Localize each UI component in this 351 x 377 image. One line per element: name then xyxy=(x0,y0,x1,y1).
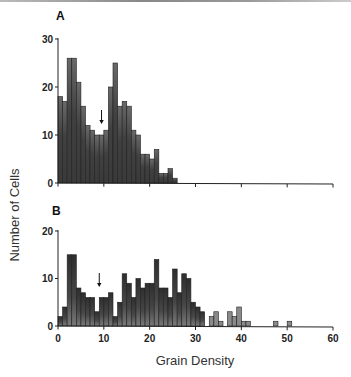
histogram-bar xyxy=(186,279,191,327)
panel-b: B 01020 0102030405060 xyxy=(42,204,339,344)
x-tick-label: 40 xyxy=(236,333,248,344)
histogram-bar xyxy=(182,274,187,326)
histogram-bar xyxy=(86,125,91,183)
y-tick-label: 20 xyxy=(42,226,54,237)
y-tick-label: 0 xyxy=(47,321,53,332)
histogram-bar xyxy=(113,63,118,183)
histogram-bar xyxy=(58,97,63,183)
histogram-bar xyxy=(168,169,173,183)
histogram-bar xyxy=(141,288,146,326)
histogram-bar xyxy=(159,173,164,183)
panel-b-bars xyxy=(58,255,292,326)
x-tick-label: 20 xyxy=(144,333,156,344)
histogram-bar xyxy=(113,317,118,327)
histogram-bar xyxy=(196,307,201,326)
histogram-bar xyxy=(200,312,205,326)
histogram-bar xyxy=(122,274,127,326)
histogram-bar xyxy=(159,288,164,326)
histogram-bar xyxy=(118,106,123,183)
histogram-bar xyxy=(99,135,104,183)
histogram-bar xyxy=(104,130,109,183)
histogram-bar xyxy=(173,178,178,183)
histogram-bar xyxy=(150,159,155,183)
histogram-bar xyxy=(86,298,91,327)
x-tick-label: 0 xyxy=(55,333,61,344)
histogram-bar xyxy=(99,298,104,327)
panel-a: A 0102030 xyxy=(42,9,333,189)
histogram-bar xyxy=(67,58,72,183)
histogram-bar xyxy=(72,58,77,183)
histogram-bar xyxy=(63,307,68,326)
histogram-bar xyxy=(154,149,159,183)
arrow-head xyxy=(99,120,103,124)
histogram-bar xyxy=(118,302,123,326)
histogram-bar xyxy=(273,321,278,326)
histogram-bar xyxy=(81,106,86,183)
histogram-bar xyxy=(136,279,141,327)
y-axis-title: Number of Cells xyxy=(7,168,22,262)
histogram-bar xyxy=(95,135,100,183)
histogram-bar xyxy=(81,293,86,326)
y-tick-label: 10 xyxy=(42,273,54,284)
histogram-bar xyxy=(218,321,223,326)
y-tick-label: 10 xyxy=(42,130,54,141)
histogram-bar xyxy=(136,135,141,183)
histogram-bar xyxy=(145,283,150,326)
histogram-bar xyxy=(72,255,77,326)
histogram-bar xyxy=(90,298,95,327)
y-tick-label: 20 xyxy=(42,82,54,93)
histogram-bar xyxy=(76,288,81,326)
histogram-bar xyxy=(145,154,150,183)
histogram-bar xyxy=(141,154,146,183)
x-axis-title: Grain Density xyxy=(156,353,235,368)
histogram-bar xyxy=(127,106,132,183)
histogram-bar xyxy=(228,312,233,326)
histogram-bar xyxy=(241,321,246,326)
histogram-bar xyxy=(104,298,109,327)
histogram-bar xyxy=(191,302,196,326)
histogram-bar xyxy=(63,101,68,183)
histogram-bar xyxy=(127,283,132,326)
histogram-bar xyxy=(246,321,251,326)
y-tick-label: 30 xyxy=(42,34,54,45)
histogram-bar xyxy=(67,255,72,326)
histogram-bar xyxy=(214,312,219,326)
figure: Number of Cells A 0102030 B 01020 010203… xyxy=(0,0,351,377)
histogram-bar xyxy=(163,288,168,326)
panel-b-label: B xyxy=(52,204,61,218)
histogram-bar xyxy=(168,298,173,327)
histogram-bar xyxy=(177,293,182,326)
x-tick-label: 30 xyxy=(190,333,202,344)
histogram-bar xyxy=(90,130,95,183)
x-tick-label: 60 xyxy=(327,333,339,344)
panel-b-xtick-labels: 0102030405060 xyxy=(55,333,339,344)
histogram-bar xyxy=(131,298,136,327)
histogram-bar xyxy=(150,283,155,326)
histogram-bar xyxy=(237,307,242,326)
histogram-bar xyxy=(76,82,81,183)
histogram-bar xyxy=(209,317,214,327)
panel-b-ytick-labels: 01020 xyxy=(42,226,54,332)
x-tick-label: 10 xyxy=(98,333,110,344)
y-tick-label: 0 xyxy=(47,178,53,189)
histogram-bar xyxy=(95,312,100,326)
histogram-bar xyxy=(108,87,113,183)
histogram-bar xyxy=(58,317,63,327)
panel-a-ytick-labels: 0102030 xyxy=(42,34,54,189)
histogram-bar xyxy=(154,260,159,327)
panel-a-bars xyxy=(58,58,177,183)
histogram-bar xyxy=(122,101,127,183)
panel-a-label: A xyxy=(56,9,65,23)
histogram-bar xyxy=(173,269,178,326)
histogram-bar xyxy=(108,293,113,326)
histogram-bar xyxy=(287,321,292,326)
arrow-head xyxy=(97,283,101,287)
panel-a-arrow-icon xyxy=(99,110,103,124)
panel-b-arrow-icon xyxy=(97,273,101,287)
histogram-bar xyxy=(131,130,136,183)
histogram-bar xyxy=(163,173,168,183)
x-tick-label: 50 xyxy=(282,333,294,344)
histogram-bar xyxy=(232,317,237,327)
